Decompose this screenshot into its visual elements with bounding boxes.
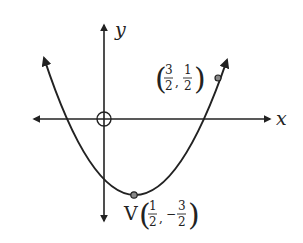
point-label: ( 3 2 , 1 2 ) [155, 61, 206, 96]
svg-text:2: 2 [165, 79, 173, 93]
svg-text:V: V [123, 202, 138, 224]
x-axis-label: x [276, 107, 287, 129]
svg-text:2: 2 [149, 215, 157, 229]
svg-text:−: − [166, 207, 176, 221]
vertex-point [131, 192, 137, 198]
svg-text:3: 3 [165, 63, 173, 77]
svg-text:3: 3 [178, 199, 186, 213]
svg-text:,: , [175, 75, 179, 89]
svg-text:1: 1 [149, 199, 157, 213]
svg-text:2: 2 [184, 79, 192, 93]
svg-text:1: 1 [184, 63, 192, 77]
svg-text:,: , [159, 211, 163, 225]
svg-text:): ) [194, 61, 206, 96]
y-axis-label: y [114, 18, 126, 40]
vertex-label: V ( 1 2 , − 3 2 ) [123, 197, 200, 232]
svg-text:2: 2 [178, 215, 186, 229]
svg-text:): ) [188, 197, 200, 232]
parabola-diagram: y x ( 3 2 , 1 2 ) V ( 1 2 , − 3 2 ) [0, 0, 303, 243]
point-three-halves [215, 75, 221, 81]
